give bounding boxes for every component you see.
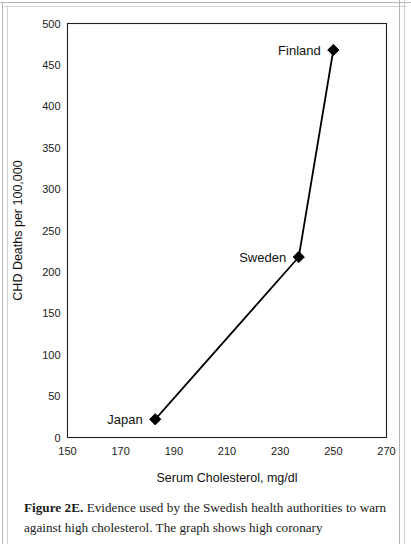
- y-tick-label: 400: [42, 100, 60, 112]
- figure-page: 0501001502002503003504004505001501701902…: [0, 0, 411, 544]
- x-tick-label: 190: [165, 445, 183, 457]
- y-tick-label: 250: [42, 225, 60, 237]
- figure-number: Figure 2E.: [24, 500, 83, 515]
- x-tick-label: 170: [111, 445, 129, 457]
- x-tick-label: 250: [324, 445, 342, 457]
- plot-frame: [68, 24, 387, 438]
- y-tick-label: 100: [42, 349, 60, 361]
- y-tick-label: 450: [42, 59, 60, 71]
- figure-caption: Figure 2E. Evidence used by the Swedish …: [24, 498, 386, 538]
- y-tick-label: 350: [42, 142, 60, 154]
- y-tick-label: 200: [42, 266, 60, 278]
- y-tick-label: 500: [42, 18, 60, 30]
- data-point-label: Finland: [278, 43, 321, 58]
- line-chart: 0501001502002503003504004505001501701902…: [0, 0, 411, 500]
- data-point-marker: [328, 44, 339, 55]
- data-series-line: [155, 50, 333, 419]
- x-tick-label: 150: [58, 445, 76, 457]
- y-axis-title: CHD Deaths per 100,000: [11, 160, 25, 300]
- x-tick-label: 210: [218, 445, 236, 457]
- y-tick-label: 50: [48, 390, 60, 402]
- y-tick-label: 150: [42, 307, 60, 319]
- x-tick-label: 230: [271, 445, 289, 457]
- data-point-label: Japan: [107, 412, 142, 427]
- chart-figure: 0501001502002503003504004505001501701902…: [0, 0, 411, 500]
- x-tick-label: 270: [377, 445, 395, 457]
- y-tick-label: 300: [42, 183, 60, 195]
- data-point-label: Sweden: [239, 250, 286, 265]
- y-tick-label: 0: [54, 432, 60, 444]
- x-axis-title: Serum Cholesterol, mg/dl: [156, 471, 297, 485]
